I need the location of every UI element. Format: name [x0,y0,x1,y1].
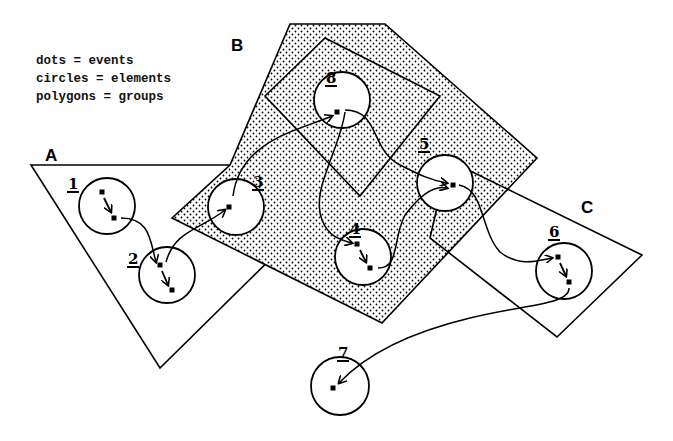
group-label-a: A [45,146,57,166]
event-dot [170,288,175,293]
group-label-c: C [581,198,593,218]
element-label-6: 6 [548,225,560,241]
element-circle-2 [139,247,195,303]
element-label-8: 8 [325,71,337,87]
element-label-3: 3 [252,175,264,191]
event-dot [355,242,360,247]
event-dot [331,386,336,391]
legend-line-groups: polygons = groups [36,88,171,106]
element-label-5: 5 [418,137,430,153]
event-dot [556,255,561,260]
legend-line-events: dots = events [36,52,171,70]
element-circle-7 [311,357,369,415]
element-label-7: 7 [337,346,349,362]
event-dot [112,216,117,221]
legend: dots = events circles = elements polygon… [36,52,171,106]
element-label-2: 2 [127,252,139,268]
group-label-b: B [231,36,243,56]
event-dot [227,205,232,210]
diagram-canvas: dots = events circles = elements polygon… [0,0,673,441]
event-dot [100,190,105,195]
element-label-4: 4 [349,222,361,238]
event-dot [335,110,340,115]
element-label-1: 1 [67,177,79,193]
event-dot [368,266,373,271]
legend-line-elements: circles = elements [36,70,171,88]
event-dot [158,263,163,268]
event-dot [451,183,456,188]
event-dot [567,280,572,285]
